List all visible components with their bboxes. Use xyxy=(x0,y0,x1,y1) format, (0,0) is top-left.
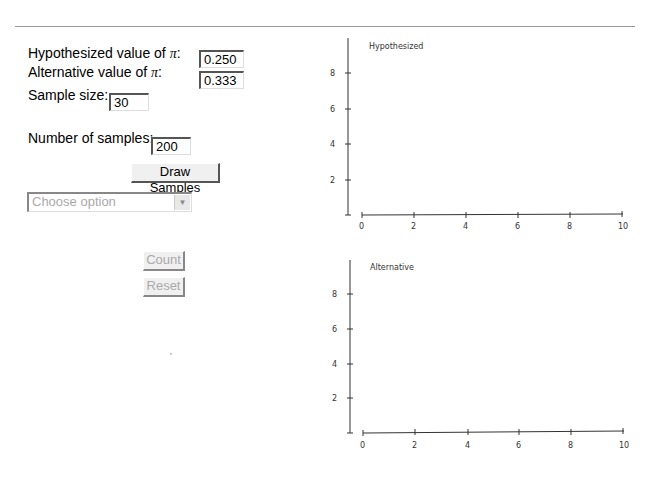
reset-button[interactable]: Reset xyxy=(143,277,185,297)
svg-text:10: 10 xyxy=(619,441,629,450)
num-samples-label: Number of samples: xyxy=(28,130,153,146)
svg-text:6: 6 xyxy=(332,325,337,334)
svg-text:6: 6 xyxy=(330,105,335,114)
svg-text:2: 2 xyxy=(332,394,337,403)
svg-text:0: 0 xyxy=(359,222,364,231)
alternative-label: Alternative value of π: xyxy=(28,64,162,81)
alternative-chart: Alternative 8 6 4 2 0 2 4 6 8 10 xyxy=(320,250,640,464)
svg-text:8: 8 xyxy=(567,222,572,231)
option-select[interactable]: Choose option ▼ xyxy=(27,192,192,212)
hypothesized-value-input[interactable]: 0.250 xyxy=(199,50,244,68)
svg-text:0: 0 xyxy=(360,441,365,450)
svg-text:4: 4 xyxy=(330,140,335,149)
svg-text:4: 4 xyxy=(465,441,470,450)
svg-text:4: 4 xyxy=(332,360,337,369)
hypothesized-label: Hypothesized value of π: xyxy=(28,45,181,62)
chart-title: Hypothesized xyxy=(369,42,423,51)
chart-title: Alternative xyxy=(370,263,414,272)
svg-text:4: 4 xyxy=(463,222,468,231)
svg-text:2: 2 xyxy=(330,176,335,185)
chevron-down-icon[interactable]: ▼ xyxy=(174,195,190,210)
select-placeholder: Choose option xyxy=(32,194,116,209)
svg-text:2: 2 xyxy=(411,222,416,231)
alternative-value-input[interactable]: 0.333 xyxy=(199,71,244,89)
top-divider xyxy=(15,26,635,27)
svg-text:8: 8 xyxy=(332,290,337,299)
svg-text:6: 6 xyxy=(516,441,521,450)
sample-size-input[interactable]: 30 xyxy=(109,93,149,111)
stray-dot xyxy=(170,353,172,355)
svg-text:10: 10 xyxy=(618,222,628,231)
hypothesized-chart: Hypothesized 8 6 4 2 0 2 4 6 8 10 xyxy=(320,30,640,244)
svg-text:2: 2 xyxy=(412,441,417,450)
num-samples-input[interactable]: 200 xyxy=(151,137,191,155)
count-button[interactable]: Count xyxy=(143,251,185,271)
svg-text:8: 8 xyxy=(330,69,335,78)
svg-text:6: 6 xyxy=(515,222,520,231)
sample-size-label: Sample size: xyxy=(28,87,108,103)
svg-text:8: 8 xyxy=(568,441,573,450)
draw-samples-button[interactable]: Draw Samples xyxy=(131,163,220,183)
